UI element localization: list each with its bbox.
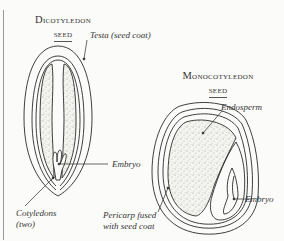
cotyledon-leader-line: [25, 178, 53, 206]
pericarp-label-line2: with seed coat: [103, 221, 156, 232]
endosperm-label: Endosperm: [221, 102, 262, 113]
pericarp-label-line1: Pericarp fused: [103, 210, 156, 221]
dicot-embryo-label: Embryo: [112, 159, 141, 170]
cotyledons-label-line2: (two): [16, 219, 57, 230]
cotyledons-label-line1: Cotyledons: [16, 208, 57, 219]
cotyledons-label: Cotyledons (two): [16, 208, 57, 230]
testa-label: Testa (seed coat): [90, 30, 151, 41]
pericarp-label: Pericarp fused with seed coat: [103, 210, 156, 232]
pericarp-leader-line: [158, 188, 168, 212]
testa-leader-line: [84, 40, 87, 59]
monocot-seed: [152, 102, 259, 234]
dicot-seed: [24, 46, 92, 196]
monocot-embryo-label: Embryo: [245, 194, 274, 205]
